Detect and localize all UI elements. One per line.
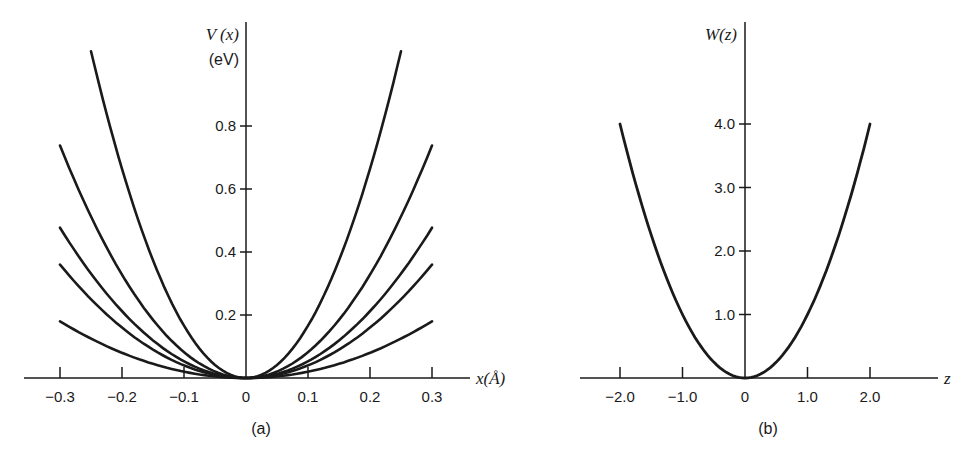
panel-b-y-label: W(z) <box>705 25 737 44</box>
x-tick-label: −2.0 <box>605 388 635 405</box>
panel-a-x-label: x(Å) <box>475 369 506 388</box>
y-tick-label: 2.0 <box>714 242 735 259</box>
panel-b: −2.0−1.001.02.0 1.02.03.04.0 W(z) z (b) <box>580 22 951 437</box>
panel-b-x-tick-labels: −2.0−1.001.02.0 <box>605 388 880 405</box>
panel-a-caption: (a) <box>251 420 271 437</box>
x-tick-label: −0.2 <box>107 388 137 405</box>
x-tick-label: 2.0 <box>860 388 881 405</box>
panel-b-y-tick-labels: 1.02.03.04.0 <box>714 115 735 323</box>
x-tick-label: 0.1 <box>298 388 319 405</box>
panel-a: −0.3−0.2−0.100.10.20.3 0.20.40.60.8 V (x… <box>24 22 506 437</box>
panel-a-y-unit: (eV) <box>209 51 239 68</box>
y-tick-label: 0.4 <box>215 243 236 260</box>
x-tick-label: −0.1 <box>169 388 199 405</box>
y-tick-label: 3.0 <box>714 179 735 196</box>
panel-b-x-label: z <box>943 369 951 388</box>
x-tick-label: 0 <box>242 388 250 405</box>
panel-a-y-label: V (x) <box>206 25 240 44</box>
x-tick-label: −0.3 <box>45 388 75 405</box>
y-tick-label: 0.2 <box>215 306 236 323</box>
x-tick-label: 0 <box>741 388 749 405</box>
y-tick-label: 0.8 <box>215 117 236 134</box>
y-tick-label: 1.0 <box>714 306 735 323</box>
figure: −0.3−0.2−0.100.10.20.3 0.20.40.60.8 V (x… <box>0 0 979 451</box>
x-tick-label: 0.3 <box>422 388 443 405</box>
panel-a-y-tick-labels: 0.20.40.60.8 <box>215 117 236 323</box>
panel-a-x-tick-labels: −0.3−0.2−0.100.10.20.3 <box>45 388 442 405</box>
panel-b-caption: (b) <box>758 420 778 437</box>
y-tick-label: 4.0 <box>714 115 735 132</box>
y-tick-label: 0.6 <box>215 180 236 197</box>
x-tick-label: 0.2 <box>360 388 381 405</box>
x-tick-label: −1.0 <box>668 388 698 405</box>
x-tick-label: 1.0 <box>797 388 818 405</box>
